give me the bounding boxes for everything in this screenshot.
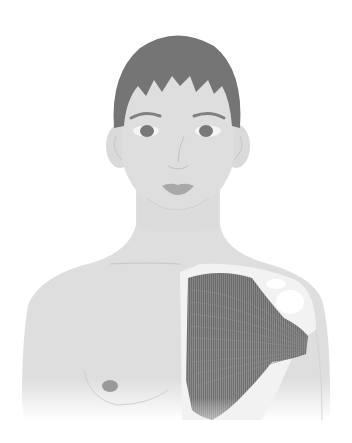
anatomy-illustration: pectoralis major muscle anatomy illustra… bbox=[0, 0, 352, 443]
nipple bbox=[102, 380, 118, 392]
